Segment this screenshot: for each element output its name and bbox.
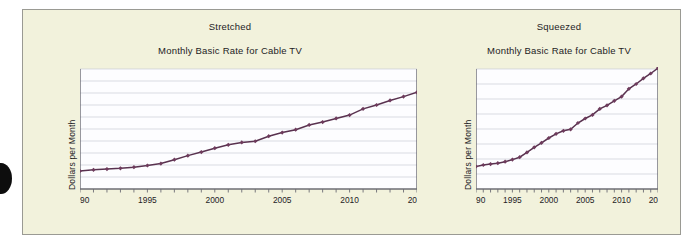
- plot-area-stretched: 0510152025303540455019901995200020052010…: [80, 67, 417, 207]
- figure-root: Stretched Monthly Basic Rate for Cable T…: [0, 0, 696, 245]
- chart-title-squeezed: Monthly Basic Rate for Cable TV: [437, 45, 681, 56]
- chart-title-stretched: Monthly Basic Rate for Cable TV: [23, 45, 437, 56]
- svg-text:2005: 2005: [576, 195, 595, 205]
- y-axis-label-squeezed: Dollars per Month: [463, 120, 473, 190]
- svg-text:2005: 2005: [273, 195, 292, 205]
- plot-area-squeezed: 0510152025303540199019952000200520102015: [476, 67, 658, 207]
- figure-panel: Stretched Monthly Basic Rate for Cable T…: [22, 9, 681, 235]
- svg-text:2000: 2000: [539, 195, 558, 205]
- svg-text:1990: 1990: [476, 195, 486, 205]
- svg-text:2010: 2010: [340, 195, 359, 205]
- chart-svg-squeezed: 0510152025303540199019952000200520102015: [476, 67, 658, 207]
- y-axis-label-stretched: Dollars per Month: [67, 120, 77, 190]
- chart-panel-stretched: Stretched Monthly Basic Rate for Cable T…: [23, 10, 437, 234]
- svg-text:2010: 2010: [612, 195, 631, 205]
- chart-kind-label-squeezed: Squeezed: [437, 21, 681, 32]
- page-bullet-icon: [0, 163, 12, 194]
- chart-panel-squeezed: Squeezed Monthly Basic Rate for Cable TV…: [437, 10, 681, 234]
- svg-text:1995: 1995: [503, 195, 522, 205]
- svg-text:1995: 1995: [138, 195, 157, 205]
- svg-text:2015: 2015: [408, 195, 417, 205]
- chart-kind-label-stretched: Stretched: [23, 21, 437, 32]
- svg-text:1990: 1990: [80, 195, 90, 205]
- svg-text:2000: 2000: [205, 195, 224, 205]
- chart-svg-stretched: 0510152025303540455019901995200020052010…: [80, 67, 417, 207]
- svg-text:2015: 2015: [649, 195, 658, 205]
